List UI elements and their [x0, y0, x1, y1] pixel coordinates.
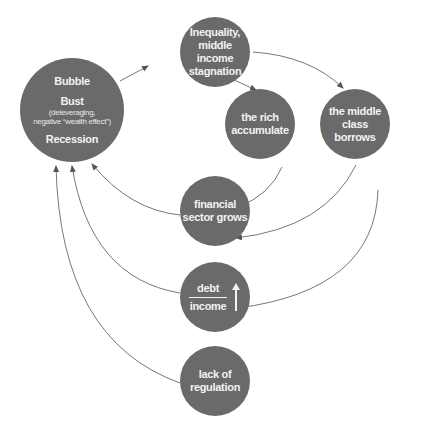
node-debt-income-rising: debt income — [180, 262, 250, 332]
node-bubble-bust-recession: Bubble Bust (deleveraging, negative “wea… — [20, 58, 124, 162]
node-middle-class-borrows: the middle class borrows — [320, 89, 390, 159]
label-financial-1: financial — [194, 198, 236, 211]
up-arrow-icon — [231, 282, 241, 312]
label-inequality-1: Inequality, — [190, 26, 240, 39]
label-wealth-effect: negative “wealth effect”) — [33, 117, 111, 126]
node-lack-of-regulation: lack of regulation — [180, 346, 250, 416]
label-recession: Recession — [46, 133, 98, 146]
edge-crisis-to-inequality — [120, 66, 148, 81]
node-financial-sector-grows: financial sector grows — [180, 176, 250, 246]
edge-middle-class-to-financial — [236, 165, 356, 238]
node-rich-accumulate: the rich accumulate — [225, 89, 295, 159]
label-middle-class-2: class borrows — [320, 118, 390, 144]
edge-inequality-to-rich — [232, 79, 256, 90]
label-middle-class-1: the middle — [329, 105, 381, 118]
label-financial-2: sector grows — [183, 211, 248, 224]
label-rich-2: accumulate — [231, 124, 289, 137]
label-inequality-2: middle income — [180, 39, 250, 65]
label-inequality-3: stagnation — [189, 65, 242, 78]
label-rich-1: the rich — [241, 111, 278, 124]
label-bust: Bust — [60, 95, 83, 108]
edge-financial-to-crisis — [92, 164, 180, 215]
label-debt: debt — [197, 282, 219, 295]
node-inequality: Inequality, middle income stagnation — [180, 17, 250, 87]
label-income: income — [190, 300, 227, 313]
label-regulation-1: lack of — [199, 368, 232, 381]
label-bubble: Bubble — [54, 75, 89, 88]
label-regulation-2: regulation — [190, 381, 240, 394]
edge-regulation-to-crisis — [56, 166, 180, 383]
edge-debt-income-to-crisis — [72, 166, 180, 293]
label-deleveraging: (deleveraging, — [49, 108, 96, 117]
edge-middle-class-to-debt-income — [238, 190, 378, 308]
edge-inequality-to-middle-class — [253, 52, 343, 88]
fraction-bar — [189, 297, 227, 298]
